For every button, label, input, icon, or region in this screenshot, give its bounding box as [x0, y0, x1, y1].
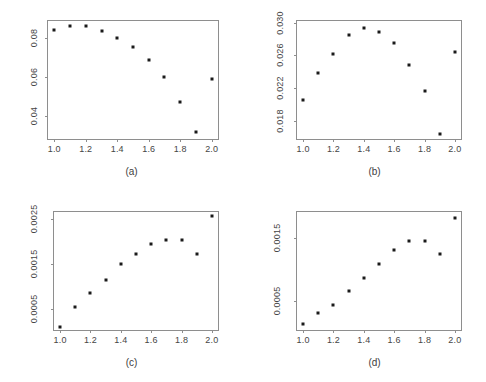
data-point — [317, 72, 320, 75]
data-point — [74, 305, 77, 308]
ytick-mark-a-1 — [45, 77, 48, 78]
ytick-mark-a-0 — [45, 116, 48, 117]
ytick-label-b-0: 0.018 — [275, 109, 285, 133]
data-point — [210, 78, 213, 81]
xtick-label-d-3: 1.6 — [388, 335, 401, 345]
xtick-mark-a-4 — [180, 139, 181, 142]
data-point — [408, 64, 411, 67]
plot-area-d: 1.01.21.41.61.82.00.00050.0015 — [297, 212, 461, 330]
xtick-mark-d-4 — [425, 330, 426, 333]
xtick-mark-b-5 — [455, 139, 456, 142]
xtick-mark-c-1 — [90, 330, 91, 333]
data-point — [438, 133, 441, 136]
xtick-label-b-4: 1.8 — [418, 144, 431, 154]
ytick-label-a-0: 0.04 — [29, 107, 39, 125]
data-point — [180, 239, 183, 242]
data-point — [53, 28, 56, 31]
ytick-mark-b-1 — [294, 88, 297, 89]
xtick-label-b-2: 1.4 — [357, 144, 370, 154]
data-point — [302, 323, 305, 326]
xtick-mark-c-2 — [121, 330, 122, 333]
xtick-mark-d-1 — [333, 330, 334, 333]
xtick-label-a-3: 1.6 — [142, 144, 155, 154]
xtick-label-b-1: 1.2 — [327, 144, 340, 154]
data-point — [378, 263, 381, 266]
ytick-label-b-2: 0.026 — [275, 44, 285, 68]
xtick-mark-c-3 — [151, 330, 152, 333]
plot-area-b: 1.01.21.41.61.82.00.0180.0220.0260.030 — [297, 21, 461, 139]
data-point — [362, 276, 365, 279]
ytick-mark-d-1 — [294, 238, 297, 239]
data-point — [89, 292, 92, 295]
panel-c: 1.01.21.41.61.82.00.00050.00150.0025 (c) — [0, 191, 243, 382]
data-point — [332, 52, 335, 55]
data-point — [179, 100, 182, 103]
xtick-label-d-1: 1.2 — [327, 335, 340, 345]
panel-caption-b: (b) — [243, 166, 486, 177]
ytick-label-c-2: 0.0025 — [30, 204, 40, 233]
plot-frame-a: 1.01.21.41.61.82.00.040.060.08 — [47, 20, 219, 140]
xtick-mark-d-3 — [394, 330, 395, 333]
xtick-label-a-2: 1.4 — [111, 144, 124, 154]
ytick-mark-c-2 — [51, 219, 54, 220]
xtick-label-c-1: 1.2 — [84, 335, 97, 345]
xtick-label-d-4: 1.8 — [418, 335, 431, 345]
ytick-label-a-1: 0.06 — [29, 68, 39, 86]
data-point — [69, 24, 72, 27]
plot-area-c: 1.01.21.41.61.82.00.00050.00150.0025 — [54, 212, 218, 330]
xtick-mark-a-1 — [86, 139, 87, 142]
xtick-label-c-2: 1.4 — [114, 335, 127, 345]
xtick-label-c-4: 1.8 — [175, 335, 188, 345]
ytick-mark-b-2 — [294, 55, 297, 56]
data-point — [84, 24, 87, 27]
xtick-label-c-3: 1.6 — [145, 335, 158, 345]
data-point — [210, 215, 213, 218]
data-point — [408, 239, 411, 242]
ytick-mark-b-3 — [294, 23, 297, 24]
ytick-label-d-1: 0.0015 — [273, 224, 283, 253]
data-point — [393, 42, 396, 45]
xtick-label-a-1: 1.2 — [79, 144, 92, 154]
data-point — [147, 58, 150, 61]
ytick-label-c-0: 0.0005 — [30, 295, 40, 324]
xtick-label-c-5: 2.0 — [205, 335, 218, 345]
xtick-mark-a-2 — [117, 139, 118, 142]
plot-frame-d: 1.01.21.41.61.82.00.00050.0015 — [296, 211, 462, 331]
ytick-label-b-1: 0.022 — [275, 76, 285, 100]
xtick-mark-b-1 — [333, 139, 334, 142]
xtick-label-c-0: 1.0 — [54, 335, 67, 345]
xtick-label-a-4: 1.8 — [174, 144, 187, 154]
data-point — [332, 304, 335, 307]
ytick-mark-d-0 — [294, 301, 297, 302]
panel-caption-d: (d) — [243, 357, 486, 368]
ytick-mark-c-0 — [51, 309, 54, 310]
xtick-label-b-0: 1.0 — [297, 144, 310, 154]
data-point — [453, 51, 456, 54]
ytick-mark-b-0 — [294, 121, 297, 122]
xtick-mark-b-2 — [364, 139, 365, 142]
plot-area-a: 1.01.21.41.61.82.00.040.060.08 — [48, 21, 218, 139]
plot-frame-c: 1.01.21.41.61.82.00.00050.00150.0025 — [53, 211, 219, 331]
xtick-mark-b-0 — [303, 139, 304, 142]
xtick-mark-b-3 — [394, 139, 395, 142]
panel-d: 1.01.21.41.61.82.00.00050.0015 (d) — [243, 191, 486, 382]
data-point — [194, 130, 197, 133]
data-point — [119, 262, 122, 265]
panel-b: 1.01.21.41.61.82.00.0180.0220.0260.030 (… — [243, 0, 486, 191]
xtick-label-a-0: 1.0 — [48, 144, 61, 154]
data-point — [132, 46, 135, 49]
data-point — [393, 249, 396, 252]
ytick-label-a-2: 0.08 — [29, 29, 39, 47]
ytick-mark-a-2 — [45, 38, 48, 39]
xtick-mark-a-0 — [54, 139, 55, 142]
figure-grid: 1.01.21.41.61.82.00.040.060.08 (a) 1.01.… — [0, 0, 486, 382]
xtick-mark-d-5 — [455, 330, 456, 333]
data-point — [195, 253, 198, 256]
xtick-label-d-5: 2.0 — [448, 335, 461, 345]
xtick-mark-a-5 — [212, 139, 213, 142]
ytick-mark-c-1 — [51, 264, 54, 265]
data-point — [347, 33, 350, 36]
data-point — [135, 253, 138, 256]
data-point — [378, 30, 381, 33]
data-point — [163, 76, 166, 79]
